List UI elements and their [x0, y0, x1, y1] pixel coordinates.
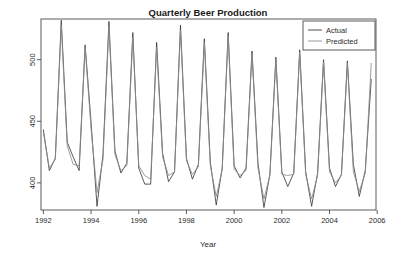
- x-tick-label: 1994: [83, 216, 100, 225]
- x-tick-label: 2000: [226, 216, 243, 225]
- x-tick-label: 1996: [130, 216, 147, 225]
- y-tick-label: 450: [29, 115, 38, 128]
- y-tick-label: 400: [29, 177, 38, 190]
- x-tick-label: 2006: [369, 216, 386, 225]
- x-tick-label: 1992: [35, 216, 52, 225]
- x-axis-label: Year: [200, 240, 217, 249]
- chart-figure: Quarterly Beer Production 400450500 1992…: [0, 0, 400, 263]
- chart-legend: Actual Predicted: [303, 21, 375, 50]
- x-tick-label: 2002: [273, 216, 290, 225]
- legend-label-actual: Actual: [326, 26, 347, 35]
- y-tick-label: 500: [29, 53, 38, 66]
- x-tick-label: 2004: [321, 216, 338, 225]
- legend-label-predicted: Predicted: [326, 37, 358, 46]
- x-tick-label: 1998: [178, 216, 195, 225]
- chart-title: Quarterly Beer Production: [149, 7, 268, 18]
